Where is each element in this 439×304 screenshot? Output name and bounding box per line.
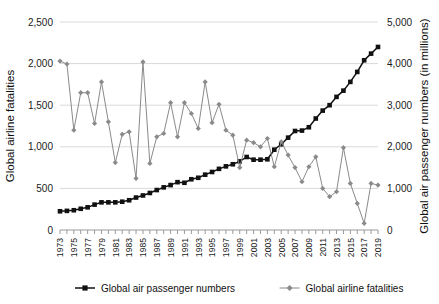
data-point bbox=[127, 129, 132, 134]
series-line-fatalities bbox=[60, 61, 378, 223]
x-axis-tick-label: 1977 bbox=[83, 238, 93, 257]
data-point bbox=[134, 195, 139, 200]
data-point bbox=[141, 193, 146, 198]
data-point bbox=[368, 181, 373, 186]
data-point bbox=[196, 126, 201, 131]
x-axis-tick-label: 1987 bbox=[152, 238, 162, 257]
data-point bbox=[78, 206, 83, 211]
data-point bbox=[182, 180, 187, 185]
data-point bbox=[272, 147, 277, 152]
y-axis-tick-label: 0 bbox=[47, 225, 53, 236]
data-point bbox=[113, 200, 118, 205]
data-point bbox=[65, 209, 70, 214]
data-point bbox=[175, 180, 180, 185]
x-axis-tick-label: 2009 bbox=[304, 238, 314, 257]
data-point bbox=[72, 208, 77, 213]
data-point bbox=[286, 135, 291, 140]
x-axis-tick-label: 1981 bbox=[111, 238, 121, 257]
data-point bbox=[341, 145, 346, 150]
data-point bbox=[286, 153, 291, 158]
data-point bbox=[307, 125, 312, 130]
y-axis-tick-label: 2,500 bbox=[28, 17, 53, 28]
data-point bbox=[85, 205, 90, 210]
x-axis-tick-label: 2007 bbox=[290, 238, 300, 257]
data-point bbox=[127, 198, 132, 203]
data-point bbox=[376, 45, 381, 50]
legend-label[interactable]: Global airline fatalities bbox=[306, 283, 404, 294]
x-axis-tick-label: 1979 bbox=[97, 238, 107, 257]
data-point bbox=[320, 108, 325, 113]
legend-marker-square bbox=[82, 285, 87, 290]
x-axis-tick-label: 1993 bbox=[194, 238, 204, 257]
data-point bbox=[161, 131, 166, 136]
x-axis-tick-label: 1999 bbox=[235, 238, 245, 257]
data-point bbox=[272, 164, 277, 169]
data-point bbox=[258, 157, 263, 162]
data-point bbox=[203, 172, 208, 177]
data-point bbox=[106, 200, 111, 205]
data-point bbox=[161, 185, 166, 190]
data-point bbox=[348, 181, 353, 186]
data-point bbox=[355, 201, 360, 206]
x-axis-tick-label: 2011 bbox=[318, 238, 328, 257]
data-point bbox=[355, 70, 360, 75]
data-point bbox=[348, 80, 353, 85]
series-line-passengers bbox=[60, 47, 378, 211]
data-point bbox=[224, 164, 229, 169]
data-point bbox=[120, 199, 125, 204]
data-point bbox=[168, 100, 173, 105]
data-point bbox=[231, 162, 236, 167]
data-point bbox=[85, 90, 90, 95]
data-point bbox=[154, 134, 159, 139]
data-point bbox=[196, 175, 201, 180]
y2-axis-tick-label: 1,000 bbox=[387, 183, 412, 194]
y-axis-tick-label: 1,000 bbox=[28, 141, 53, 152]
data-point bbox=[189, 177, 194, 182]
y-axis-title: Global airline fatalities bbox=[4, 70, 16, 183]
y2-axis-tick-label: 0 bbox=[387, 225, 393, 236]
data-point bbox=[217, 167, 222, 172]
x-axis-tick-label: 2015 bbox=[346, 238, 356, 257]
legend-label[interactable]: Global air passenger numbers bbox=[101, 283, 235, 294]
x-axis-tick-label: 1975 bbox=[69, 238, 79, 257]
data-point bbox=[375, 182, 380, 187]
data-point bbox=[57, 59, 62, 64]
data-point bbox=[133, 176, 138, 181]
data-point bbox=[327, 103, 332, 108]
data-point bbox=[175, 134, 180, 139]
y2-axis-tick-label: 2,000 bbox=[387, 141, 412, 152]
data-point bbox=[99, 200, 104, 205]
x-axis-tick-label: 2003 bbox=[263, 238, 273, 257]
data-point bbox=[147, 161, 152, 166]
data-point bbox=[120, 132, 125, 137]
data-point bbox=[313, 116, 318, 121]
x-axis-tick-label: 2019 bbox=[373, 238, 383, 257]
data-point bbox=[341, 88, 346, 93]
y-axis-tick-label: 500 bbox=[36, 183, 53, 194]
x-axis-tick-label: 1983 bbox=[124, 238, 134, 257]
x-axis-tick-label: 2013 bbox=[332, 238, 342, 257]
x-axis-tick-label: 1973 bbox=[55, 238, 65, 257]
data-point bbox=[71, 128, 76, 133]
data-point bbox=[362, 221, 367, 226]
x-axis-tick-label: 2017 bbox=[359, 238, 369, 257]
data-point bbox=[299, 179, 304, 184]
x-axis-tick-label: 1989 bbox=[166, 238, 176, 257]
y-axis-tick-label: 2,000 bbox=[28, 58, 53, 69]
y-axis-tick-label: 1,500 bbox=[28, 100, 53, 111]
data-point bbox=[148, 191, 153, 196]
x-axis-tick-label: 2005 bbox=[277, 238, 287, 257]
data-point bbox=[58, 209, 63, 214]
data-point bbox=[362, 58, 367, 63]
data-point bbox=[292, 165, 297, 170]
data-point bbox=[265, 157, 270, 162]
x-axis-tick-label: 2001 bbox=[249, 238, 259, 257]
data-point bbox=[237, 165, 242, 170]
data-point bbox=[293, 129, 298, 134]
y2-axis-tick-label: 5,000 bbox=[387, 17, 412, 28]
x-axis-tick-label: 1991 bbox=[180, 238, 190, 257]
dual-axis-line-chart: 05001,0001,5002,0002,50001,0002,0003,000… bbox=[0, 0, 439, 304]
data-point bbox=[99, 79, 104, 84]
data-point bbox=[251, 157, 256, 162]
y2-axis-tick-label: 3,000 bbox=[387, 100, 412, 111]
